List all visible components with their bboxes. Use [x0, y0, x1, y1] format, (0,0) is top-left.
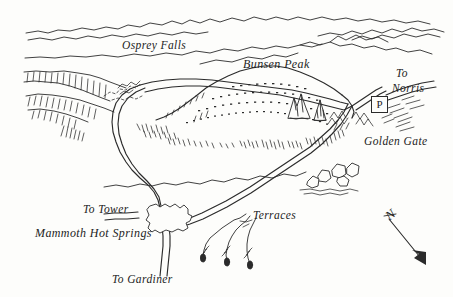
golden-gate-cliffs: [328, 111, 373, 130]
map-linework: [0, 0, 453, 297]
label-mammoth-hot-springs: Mammoth Hot Springs: [35, 227, 152, 241]
label-to-tower: To Tower: [83, 203, 129, 216]
foreground-terrain: [104, 172, 306, 187]
loop-road: [112, 79, 352, 228]
gardner-river-canyon: [24, 71, 126, 141]
vegetation-marks: [137, 124, 344, 149]
label-terraces: Terraces: [253, 209, 296, 222]
norris-terrain-hatching: [382, 96, 424, 131]
label-to-norris-line1: To: [396, 67, 408, 80]
label-golden-gate: Golden Gate: [364, 135, 427, 148]
slope-hachures: [166, 93, 208, 122]
horizon-ridges: [26, 17, 444, 40]
label-to-norris-line2: Norris: [392, 82, 424, 95]
label-osprey-falls: Osprey Falls: [122, 39, 186, 52]
plateau-edge: [25, 35, 432, 64]
mammoth-hot-springs-area: [146, 204, 192, 233]
label-to-gardiner: To Gardiner: [112, 273, 173, 286]
parking-marker: P: [371, 96, 388, 113]
map-illustration: Osprey Falls Bunsen Peak To Norris P Gol…: [0, 0, 453, 297]
boulder-field: [300, 163, 359, 195]
terraces-feature: [200, 214, 256, 269]
bunsen-peak-massif: [156, 66, 354, 120]
label-bunsen-peak: Bunsen Peak: [243, 58, 310, 72]
